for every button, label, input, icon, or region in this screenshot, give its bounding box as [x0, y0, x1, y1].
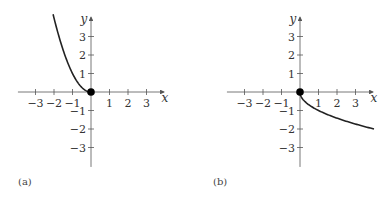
y-tick-label: 2 [79, 49, 86, 62]
x-tick-label: 2 [125, 97, 132, 110]
y-tick-label: −2 [70, 123, 86, 136]
x-tick-label: −2 [46, 97, 62, 110]
x-tick-label: 3 [352, 97, 359, 110]
y-tick-label: 1 [79, 68, 86, 81]
y-tick-label: 1 [288, 68, 295, 81]
x-tick-label: −3 [236, 97, 252, 110]
panel-label: (a) [18, 176, 32, 187]
y-axis-label: y [80, 12, 88, 26]
x-axis-label: x [371, 91, 378, 105]
x-axis-label: x [162, 91, 169, 105]
graph-panel-a: −3−2−1123321−1−2−3xy(a) [18, 12, 169, 187]
y-tick-label: −2 [279, 123, 295, 136]
y-tick-label: 3 [79, 31, 86, 44]
y-tick-label: 3 [288, 31, 295, 44]
origin-point [296, 88, 304, 96]
y-tick-label: −3 [279, 142, 295, 155]
y-tick-label: −1 [279, 105, 295, 118]
x-tick-label: −3 [27, 97, 43, 110]
x-tick-label: 3 [143, 97, 150, 110]
panel-label: (b) [213, 176, 227, 187]
y-tick-label: 2 [288, 49, 295, 62]
graph-panel-b: −3−2−1123321−1−2−3xy(b) [213, 12, 378, 187]
x-tick-label: 1 [315, 97, 322, 110]
origin-point [87, 88, 95, 96]
x-tick-label: 2 [334, 97, 341, 110]
figure: −3−2−1123321−1−2−3xy(a) −3−2−1123321−1−2… [0, 0, 392, 201]
y-axis-label: y [289, 12, 297, 26]
x-tick-label: 1 [106, 97, 113, 110]
y-tick-label: −3 [70, 142, 86, 155]
y-tick-label: −1 [70, 105, 86, 118]
x-tick-label: −2 [255, 97, 271, 110]
